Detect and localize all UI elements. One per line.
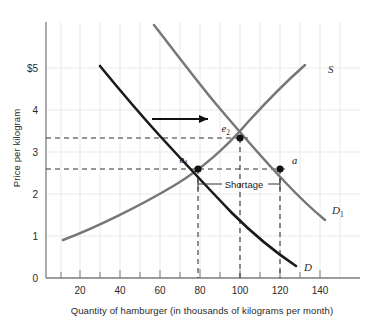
shifted-demand-subscript: 1	[340, 210, 344, 219]
x-axis-title: Quantity of hamburger (in thousands of k…	[71, 305, 334, 316]
y-tick-label-5: $5	[27, 63, 39, 74]
shortage-annotation: Shortage	[198, 178, 280, 190]
y-tick-label-4: 4	[32, 105, 38, 116]
point-e1-label: e1	[180, 154, 189, 168]
point-e2-subscript: 2	[226, 128, 230, 137]
y-tick-label-1: 1	[32, 231, 38, 242]
x-tick-label-120: 120	[272, 285, 289, 296]
axes	[46, 22, 360, 278]
curve-labels: S D1 D	[303, 63, 344, 273]
y-axis-title: Price per kilogram	[11, 109, 22, 187]
point-e2-dot	[236, 134, 243, 141]
shift-arrow-head	[199, 115, 208, 123]
y-tick-label-3: 3	[32, 147, 38, 158]
supply-curve	[63, 65, 305, 240]
point-a-dot	[276, 165, 283, 172]
curves	[63, 25, 325, 266]
point-e2-label: e2	[222, 123, 231, 137]
x-tick-label-100: 100	[232, 285, 249, 296]
grid-lines	[46, 22, 360, 278]
y-tick-label-2: 2	[32, 189, 38, 200]
y-tick-label-0: 0	[32, 273, 38, 284]
point-a-label: a	[292, 155, 297, 166]
x-tick-label-60: 60	[154, 285, 166, 296]
x-tick-label-20: 20	[74, 285, 86, 296]
x-tick-label-80: 80	[194, 285, 206, 296]
x-tick-labels: 20 40 60 80 100 120 140	[74, 285, 328, 296]
supply-demand-chart-figure: 0 1 2 3 4 $5 20 40 60 80 100 120 140 S	[0, 0, 376, 328]
point-e1-subscript: 1	[184, 159, 188, 168]
shifted-demand-curve-label: D1	[331, 204, 344, 219]
shortage-label: Shortage	[225, 179, 264, 190]
x-tick-label-40: 40	[114, 285, 126, 296]
x-tick-label-140: 140	[312, 285, 329, 296]
guide-lines	[46, 138, 288, 278]
point-e1-dot	[194, 165, 201, 172]
chart-canvas: 0 1 2 3 4 $5 20 40 60 80 100 120 140 S	[0, 0, 376, 328]
supply-curve-label: S	[328, 63, 334, 75]
original-demand-curve-label: D	[303, 261, 312, 273]
y-tick-labels: 0 1 2 3 4 $5	[27, 63, 39, 284]
